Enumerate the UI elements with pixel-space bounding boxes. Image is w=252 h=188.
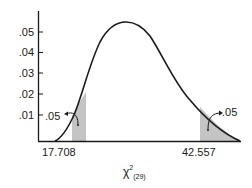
x-axis-label-subscript: (29) [133,173,145,180]
chi-square-figure: .05 .04 .03 .02 .01 .05 .05 17.708 42.55… [0,0,252,188]
x-tick-label-upper: 42.557 [182,147,216,158]
y-tick-label: .01 [10,110,34,121]
right-tail-annotation: .05 [222,107,237,118]
x-axis-label-superscript: 2 [129,164,133,171]
y-tick-label: .02 [10,89,34,100]
y-tick-label: .03 [10,68,34,79]
chart-canvas [0,0,252,188]
y-tick-label: .05 [10,27,34,38]
right-annotation-dot [207,129,209,131]
x-axis-label: χ2(29) [123,163,146,182]
left-arrowhead-icon [64,112,68,117]
y-tick-label: .04 [10,47,34,58]
left-tail-annotation: .05 [45,111,60,122]
x-tick-label-lower: 17.708 [42,147,76,158]
left-annotation-dot [77,124,79,126]
